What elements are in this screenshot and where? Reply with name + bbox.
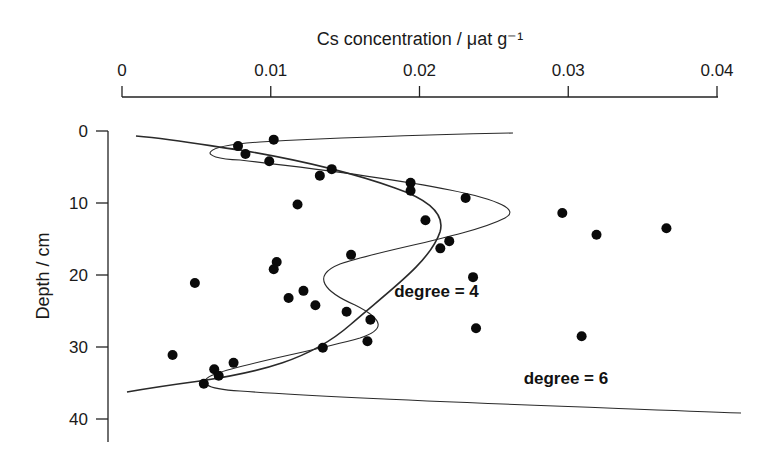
y-tick-label: 10 (69, 194, 88, 213)
x-tick-label: 0 (117, 61, 126, 80)
x-axis: Cs concentration / μat g⁻¹ 00.010.020.03… (117, 29, 733, 97)
data-point (233, 141, 243, 151)
data-point (229, 358, 239, 368)
x-tick-label: 0.03 (552, 61, 585, 80)
data-point (471, 323, 481, 333)
x-tick-label: 0.01 (254, 61, 287, 80)
data-point (199, 379, 209, 389)
data-point (406, 186, 416, 196)
data-point (461, 193, 471, 203)
data-point (435, 243, 445, 253)
x-tick-label: 0.04 (700, 61, 733, 80)
data-point (318, 343, 328, 353)
data-point (284, 293, 294, 303)
data-point (444, 236, 454, 246)
data-point (577, 331, 587, 341)
data-point (557, 208, 567, 218)
curve-annotations: degree = 4degree = 6 (394, 282, 608, 389)
data-point (342, 307, 352, 317)
data-point (269, 264, 279, 274)
data-point (264, 156, 274, 166)
data-point (365, 315, 375, 325)
data-point (310, 300, 320, 310)
data-point (346, 250, 356, 260)
y-tick-label: 40 (69, 410, 88, 429)
data-point (269, 135, 279, 145)
data-point (362, 336, 372, 346)
data-point (420, 215, 430, 225)
data-point (315, 171, 325, 181)
data-points (168, 135, 672, 389)
depth-profile-chart: Cs concentration / μat g⁻¹ 00.010.020.03… (0, 0, 772, 463)
x-tick-label: 0.02 (403, 61, 436, 80)
data-point (293, 199, 303, 209)
data-point (214, 371, 224, 381)
curve-label: degree = 6 (524, 369, 609, 388)
y-tick-label: 30 (69, 338, 88, 357)
y-tick-label: 0 (79, 122, 88, 141)
y-tick-label: 20 (69, 266, 88, 285)
data-point (168, 350, 178, 360)
data-point (592, 230, 602, 240)
y-axis-ticks: 010203040 (69, 122, 108, 429)
data-point (240, 149, 250, 159)
x-axis-ticks: 00.010.020.030.04 (117, 61, 733, 97)
y-axis-title: Depth / cm (33, 232, 53, 319)
y-axis: Depth / cm 010203040 (33, 122, 108, 442)
x-axis-title: Cs concentration / μat g⁻¹ (317, 29, 523, 49)
data-point (661, 223, 671, 233)
data-point (327, 164, 337, 174)
data-point (298, 286, 308, 296)
data-point (190, 278, 200, 288)
curve-label: degree = 4 (394, 282, 479, 301)
